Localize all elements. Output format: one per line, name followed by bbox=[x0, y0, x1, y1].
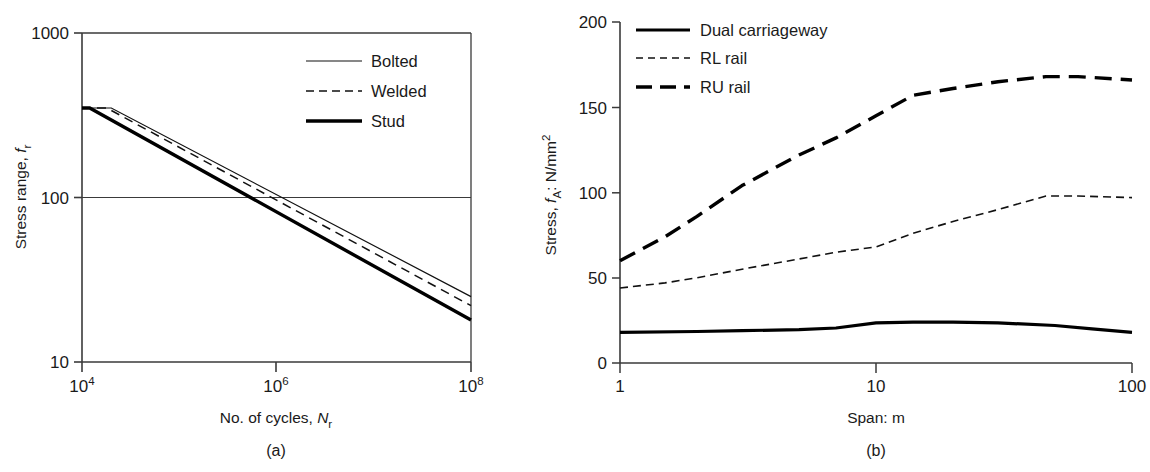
panel-b-series-rl-rail bbox=[620, 196, 1132, 288]
panel-b-y-ticklabel-150: 150 bbox=[579, 99, 607, 118]
panel-b-legend-item-ru-rail: RU rail bbox=[636, 78, 750, 96]
figure-container: 1000 100 10 104 106 108 Bolted bbox=[0, 0, 1150, 472]
panel-b-line-dual-carriageway bbox=[620, 322, 1132, 332]
panel-a-x-axis-title: No. of cycles, Nr bbox=[220, 409, 333, 430]
panel-b-line-ru-rail bbox=[620, 77, 1132, 261]
panel-a-legend-label-welded: Welded bbox=[371, 82, 427, 100]
panel-b-y-axis-title: Stress, fA: N/mm2 bbox=[540, 135, 563, 256]
panel-b-x-ticks bbox=[620, 363, 1132, 373]
panel-a-label: (a) bbox=[266, 442, 286, 459]
panel-b-x-ticklabel-100: 100 bbox=[1118, 377, 1146, 396]
panel-b: 200 150 100 50 0 1 10 100 Dual carriagew… bbox=[540, 13, 1146, 459]
panel-b-legend-label-dual-carriageway: Dual carriageway bbox=[700, 21, 828, 39]
panel-a-y-ticklabel-1000: 1000 bbox=[31, 24, 69, 43]
panel-b-x-axis-title: Span: m bbox=[847, 409, 905, 426]
panel-a-legend-item-bolted: Bolted bbox=[306, 52, 418, 70]
panel-a-legend: Bolted Welded Stud bbox=[306, 52, 427, 130]
panel-a-x-ticklabel-1e6: 106 bbox=[263, 375, 288, 396]
panel-b-legend-item-dual-carriageway: Dual carriageway bbox=[636, 21, 828, 39]
panel-b-y-ticklabel-0: 0 bbox=[598, 354, 607, 373]
panel-b-legend-label-ru-rail: RU rail bbox=[700, 78, 750, 96]
panel-a-legend-label-bolted: Bolted bbox=[371, 52, 418, 70]
panel-b-label: (b) bbox=[866, 442, 886, 459]
panel-b-series-ru-rail bbox=[620, 77, 1132, 261]
panel-b-line-rl-rail bbox=[620, 196, 1132, 288]
panel-a-x-ticks bbox=[82, 362, 471, 372]
panel-a-x-ticklabel-1e4: 104 bbox=[69, 375, 95, 396]
panel-a-y-ticklabel-100: 100 bbox=[41, 189, 69, 208]
panel-b-x-ticklabel-1: 1 bbox=[615, 377, 624, 396]
panel-a-legend-item-welded: Welded bbox=[306, 82, 427, 100]
panel-a: 1000 100 10 104 106 108 Bolted bbox=[12, 24, 484, 459]
panel-a-legend-item-stud: Stud bbox=[306, 112, 405, 130]
panel-a-legend-label-stud: Stud bbox=[371, 112, 405, 130]
panel-a-y-ticks bbox=[74, 33, 82, 362]
panel-a-y-ticklabel-10: 10 bbox=[50, 353, 69, 372]
panel-b-y-ticklabel-200: 200 bbox=[579, 13, 607, 32]
panel-b-y-ticklabel-50: 50 bbox=[588, 269, 607, 288]
figure-svg: 1000 100 10 104 106 108 Bolted bbox=[0, 0, 1150, 472]
panel-a-x-ticklabel-1e8: 108 bbox=[458, 375, 483, 396]
panel-b-y-ticklabel-100: 100 bbox=[579, 184, 607, 203]
panel-b-series-dual-carriageway bbox=[620, 322, 1132, 332]
panel-a-y-axis-title: Stress range, fr bbox=[12, 145, 33, 250]
panel-a-series-stud bbox=[82, 108, 471, 320]
panel-b-legend-label-rl-rail: RL rail bbox=[700, 49, 747, 67]
panel-a-line-stud bbox=[82, 108, 471, 320]
panel-b-x-ticklabel-10: 10 bbox=[867, 377, 886, 396]
panel-b-axes-frame bbox=[620, 22, 1132, 363]
panel-b-legend: Dual carriageway RL rail RU rail bbox=[636, 21, 828, 96]
panel-b-legend-item-rl-rail: RL rail bbox=[636, 49, 747, 67]
panel-b-y-ticks bbox=[612, 22, 620, 363]
